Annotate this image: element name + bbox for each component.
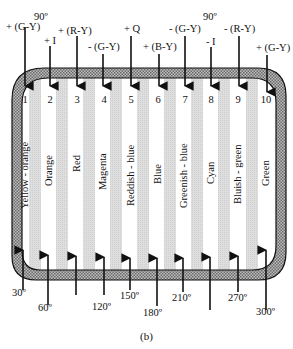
bar-index-4: 4 [101,95,106,106]
angle-label-60: 60º [38,303,52,314]
signal-label-1: + (G-Y) [6,22,40,33]
figure-caption: (b) [140,330,153,342]
bar-index-1: 1 [22,95,27,106]
angle-label-90-right: 90º [203,12,217,23]
signal-label-8: - I [206,37,216,48]
bar-index-8: 8 [208,95,213,106]
bar-index-10: 10 [261,95,272,106]
angle-label-30: 30º [12,288,26,299]
bar-name-10: Green [261,160,272,186]
bar-name-9: Bluish - green [233,145,244,205]
bar-name-8: Cyan [206,162,217,184]
signal-label-4: - (G-Y) [88,42,120,53]
bar-index-9: 9 [235,95,240,106]
bar-name-2: Orange [44,155,55,186]
bar-index-7: 7 [182,95,187,106]
angle-label-180: 180º [143,308,162,319]
angle-label-300: 300º [256,307,275,318]
signal-label-2: + I [44,36,56,47]
bar-index-2: 2 [47,95,52,106]
angle-label-270: 270º [228,293,247,304]
signal-label-3: + (R-Y) [58,26,92,37]
color-bar-diagram: 90º 90º + (G-Y) + I + (R-Y) - (G-Y) + Q … [0,0,293,349]
bar-index-5: 5 [128,95,133,106]
signal-label-7: - (G-Y) [169,24,201,35]
bar-name-3: Red [72,155,83,172]
bar-index-3: 3 [74,95,79,106]
bar-name-4: Magenta [98,153,109,190]
bar-index-6: 6 [155,95,160,106]
signal-label-5: + Q [124,24,140,35]
signal-label-9: - (R-Y) [224,24,255,35]
bar-name-5: Reddish - blue [126,145,137,206]
angle-label-120: 120º [92,302,111,313]
angle-label-150: 150º [120,291,139,302]
bar-name-7: Greenish - blue [179,143,190,208]
signal-label-6: + (B-Y) [143,42,177,53]
bar-name-6: Blue [153,164,164,184]
bar-name-1: Yellow - orange [20,142,31,209]
stripes [29,70,258,280]
angle-label-210: 210º [172,293,191,304]
signal-label-10: + (G-Y) [256,43,290,54]
